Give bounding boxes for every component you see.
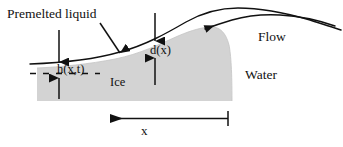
label-x-axis: x	[141, 124, 148, 137]
label-ice: Ice	[110, 76, 125, 89]
label-d-of-x: d(x)	[150, 44, 171, 57]
label-flow: Flow	[258, 30, 286, 44]
premelted-label-leader-arrow	[100, 23, 120, 53]
diagram-canvas	[0, 0, 343, 147]
label-premelted-liquid: Premelted liquid	[7, 7, 97, 21]
label-h-of-x-t: h(x,t)	[57, 63, 84, 76]
label-water: Water	[245, 68, 277, 82]
premelting-flow-diagram: Premelted liquid h(x,t) d(x) Ice Water F…	[0, 0, 343, 147]
